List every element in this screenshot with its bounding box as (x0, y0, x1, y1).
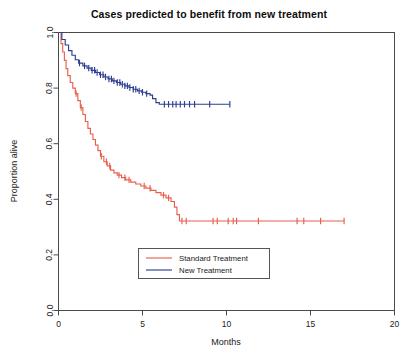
x-tick-label: 10 (222, 319, 232, 329)
legend-label-new-treatment: New Treatment (179, 266, 233, 275)
chart-title: Cases predicted to benefit from new trea… (91, 8, 328, 20)
chart-canvas: Cases predicted to benefit from new trea… (0, 0, 419, 354)
y-tick-label: 1.0 (45, 26, 55, 38)
chart-background (0, 0, 419, 354)
y-tick-label: 0.8 (45, 82, 55, 94)
chart-legend: Standard Treatment New Treatment (139, 249, 270, 279)
x-tick-label: 5 (140, 319, 145, 329)
y-tick-label: 0.0 (45, 304, 55, 316)
survival-chart: Cases predicted to benefit from new trea… (0, 0, 419, 354)
x-tick-label: 20 (390, 319, 400, 329)
y-tick-label: 0.6 (45, 138, 55, 150)
y-axis-title: Proportion alive (9, 140, 19, 203)
legend-label-standard-treatment: Standard Treatment (179, 254, 249, 263)
x-tick-label: 15 (306, 319, 316, 329)
y-tick-label: 0.2 (45, 249, 55, 261)
x-axis-title: Months (211, 337, 241, 347)
x-tick-label: 0 (56, 319, 61, 329)
y-tick-label: 0.4 (45, 193, 55, 205)
